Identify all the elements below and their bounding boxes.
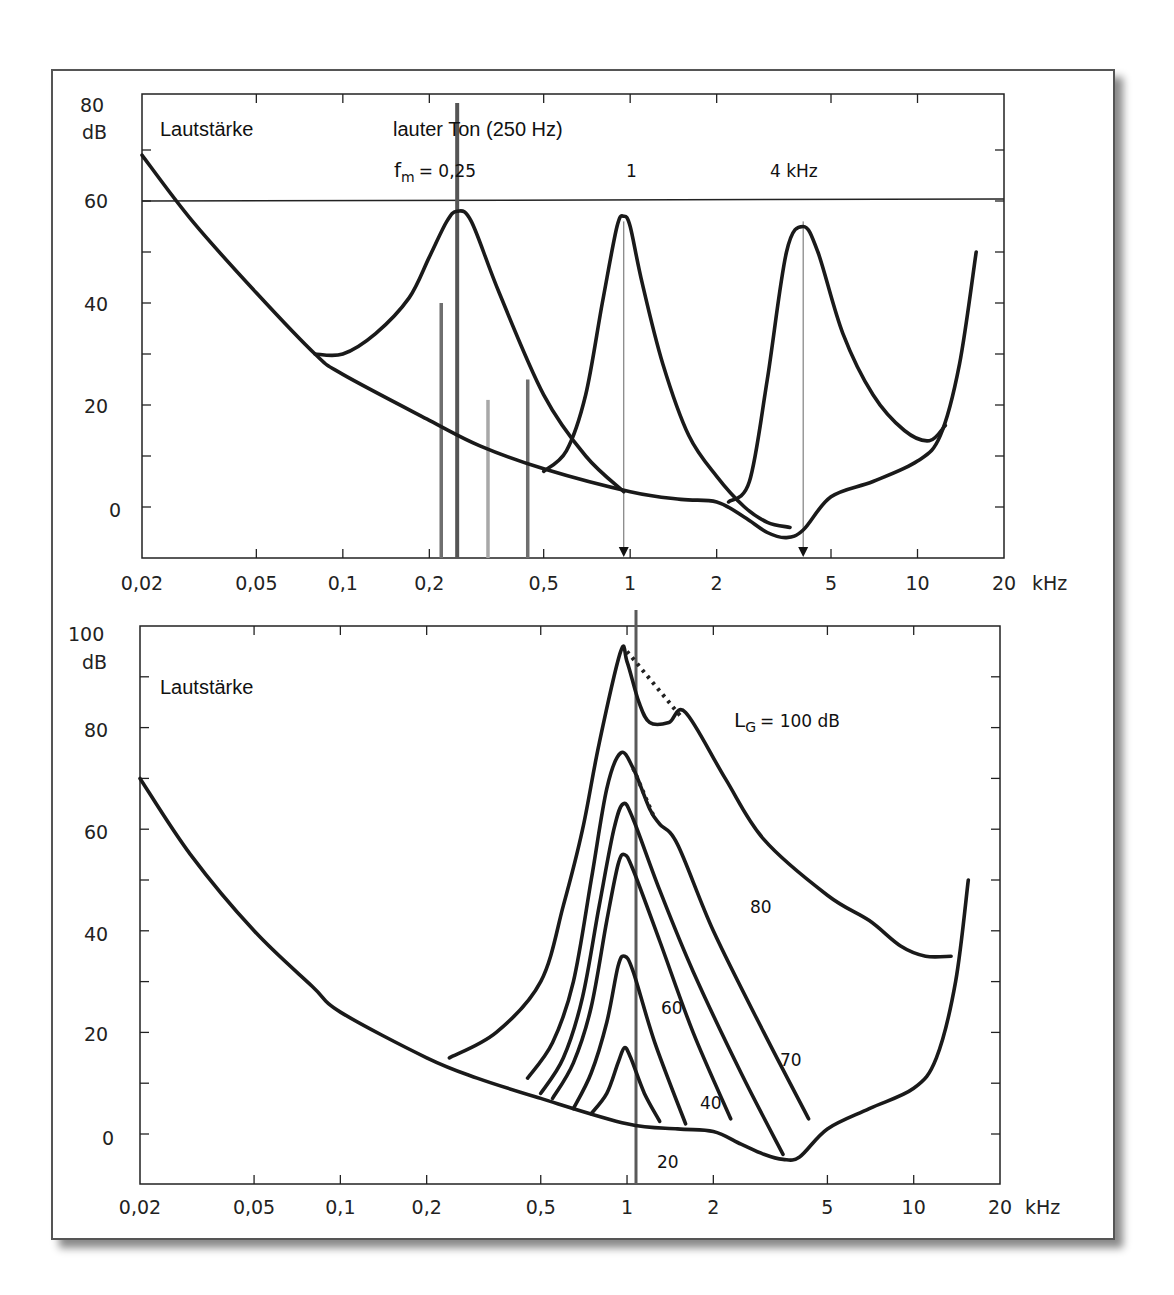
curve-mith-rschwelle-f-m-4-khz (729, 227, 946, 502)
x-tick-label: 0,05 (233, 1196, 275, 1218)
loud-tone-label: lauter Ton (250 Hz) (393, 118, 563, 140)
curve-l-g-60-db (553, 854, 731, 1119)
curve-label-70: 70 (780, 1050, 802, 1070)
chart-canvas: 80 dB 60 40 20 0 Lautstärke lauter Ton (… (0, 0, 1174, 1295)
curve-l-g-20-db (591, 1047, 660, 1121)
x-tick-label: 0,5 (526, 1196, 556, 1218)
x-tick-label: 20 (988, 1196, 1012, 1218)
x-tick-label: 2 (711, 572, 723, 594)
lower-x-unit-label: kHz (1025, 1196, 1060, 1218)
x-tick-label: 20 (992, 572, 1016, 594)
x-tick-label: 10 (905, 572, 929, 594)
x-tick-label: 5 (821, 1196, 833, 1218)
lower-y-unit-label: dB (82, 651, 107, 673)
lower-y-tick-40: 40 (84, 923, 108, 945)
curve-l-g-80-db (528, 752, 809, 1119)
lower-x-tick-labels: 0,020,050,10,20,51251020 (119, 1196, 1012, 1218)
upper-center-frequency-arrows (619, 221, 808, 557)
upper-y-tick-20: 20 (84, 395, 108, 417)
upper-x-unit-label: kHz (1032, 572, 1067, 594)
x-tick-label: 5 (825, 572, 837, 594)
x-tick-label: 0,1 (328, 572, 358, 594)
fm-label-4khz: 4 kHz (770, 161, 818, 181)
curve-l-g-100-db (449, 646, 951, 1058)
upper-title-label: Lautstärke (160, 118, 253, 140)
lower-y-top-label: 100 (68, 623, 104, 645)
x-tick-label: 2 (707, 1196, 719, 1218)
lower-title-label: Lautstärke (160, 676, 253, 698)
upper-axis-ticks (142, 94, 1004, 558)
curve-l-g-40-db (573, 956, 685, 1124)
curve-label-80: 80 (750, 897, 772, 917)
upper-y-top-label: 80 (80, 94, 104, 116)
lower-axis-ticks (140, 626, 1000, 1184)
fm-label: fm= 0,25 (394, 158, 476, 185)
curve-ruheh-rschwelle (142, 155, 976, 538)
lower-curves (140, 646, 968, 1160)
x-tick-label: 0,5 (529, 572, 559, 594)
upper-plot-area (142, 94, 1004, 558)
fm-label-1khz: 1 (626, 161, 637, 181)
lg-label: LG= 100 dB (734, 708, 840, 735)
arrow-head-icon (619, 547, 629, 557)
upper-curves (142, 155, 976, 538)
lower-plot-area (140, 626, 1000, 1184)
upper-x-tick-labels: 0,020,050,10,20,51251020 (121, 572, 1016, 594)
x-tick-label: 1 (621, 1196, 633, 1218)
curve-label-20: 20 (657, 1152, 679, 1172)
upper-chart: 80 dB 60 40 20 0 Lautstärke lauter Ton (… (80, 94, 1067, 594)
lower-y-tick-60: 60 (84, 821, 108, 843)
x-tick-label: 0,02 (121, 572, 163, 594)
curve-ruheh-rschwelle (140, 778, 968, 1160)
x-tick-label: 0,1 (325, 1196, 355, 1218)
arrow-head-icon (798, 547, 808, 557)
upper-y-tick-0: 0 (109, 499, 121, 521)
x-tick-label: 0,02 (119, 1196, 161, 1218)
curve-label-40: 40 (700, 1093, 722, 1113)
lower-y-tick-0: 0 (102, 1127, 114, 1149)
upper-y-tick-60: 60 (84, 190, 108, 212)
x-tick-label: 1 (624, 572, 636, 594)
upper-y-tick-40: 40 (84, 293, 108, 315)
upper-reference-line-60db (142, 199, 1004, 201)
x-tick-label: 0,2 (414, 572, 444, 594)
x-tick-label: 0,2 (412, 1196, 442, 1218)
lower-chart: 100 dB 80 60 40 20 0 Lautstärke LG= 100 … (68, 610, 1060, 1218)
lower-y-tick-80: 80 (84, 719, 108, 741)
curve-mith-rschwelle-f-m-0-25-khz (315, 211, 624, 492)
x-tick-label: 0,05 (235, 572, 277, 594)
lower-y-tick-20: 20 (84, 1023, 108, 1045)
curve-label-60: 60 (661, 998, 683, 1018)
x-tick-label: 10 (902, 1196, 926, 1218)
upper-y-unit-label: dB (82, 121, 107, 143)
